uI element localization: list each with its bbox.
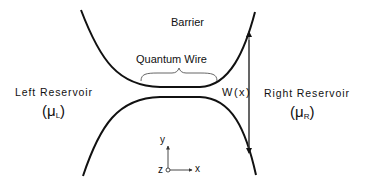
quantum-wire-brace bbox=[141, 68, 217, 81]
x-axis-label: x bbox=[195, 163, 200, 174]
upper-barrier-curve bbox=[81, 10, 255, 87]
left-reservoir-label: Left Reservoir bbox=[15, 86, 93, 98]
lower-barrier-curve bbox=[83, 97, 256, 176]
right-reservoir-label: Right Reservoir bbox=[264, 87, 350, 99]
z-axis-label: z bbox=[158, 164, 163, 175]
quantum-wire-label: Quantum Wire bbox=[136, 53, 207, 65]
width-label: W(x) bbox=[222, 86, 251, 98]
paren-close: ) bbox=[60, 102, 65, 119]
paren-close: ) bbox=[309, 103, 314, 120]
barrier-label: Barrier bbox=[171, 16, 204, 28]
mu-symbol: (μ bbox=[42, 102, 56, 119]
mu-symbol: (μ bbox=[290, 103, 304, 120]
right-chemical-potential: (μR) bbox=[290, 103, 314, 121]
y-axis-label: y bbox=[160, 134, 165, 145]
left-chemical-potential: (μL) bbox=[42, 102, 65, 120]
z-axis-symbol bbox=[166, 168, 170, 172]
